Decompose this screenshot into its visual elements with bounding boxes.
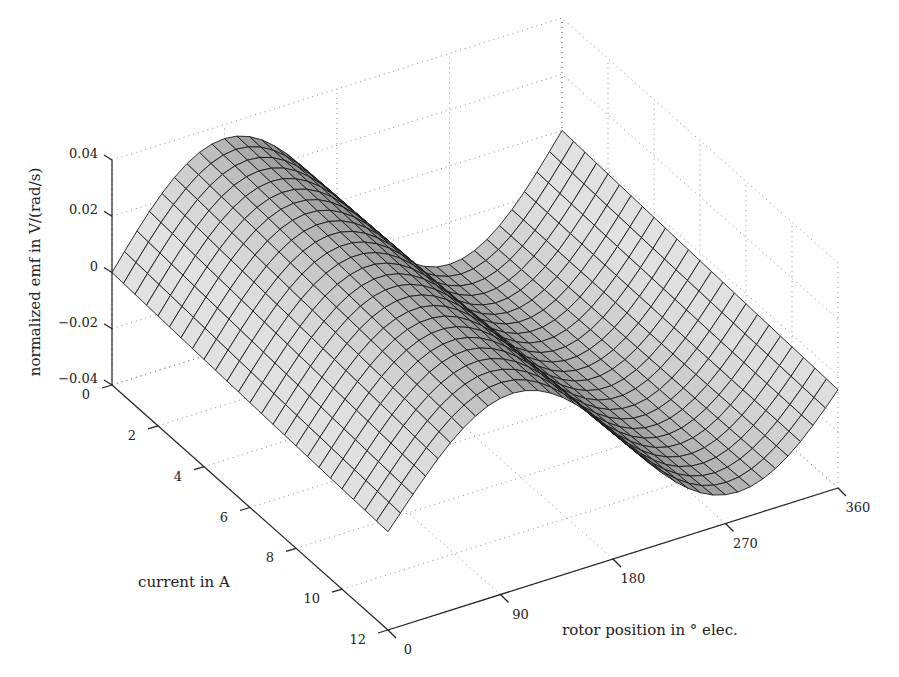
x-tick-label: 270 — [733, 536, 758, 551]
surface-plot: 0.040.020−0.02−0.04024681012090180270360… — [0, 0, 899, 677]
x-tick-label: 180 — [621, 571, 646, 586]
z-tick-label: 0.04 — [69, 146, 98, 161]
y-axis-label: current in A — [138, 573, 230, 591]
z-tick-label: −0.04 — [58, 371, 98, 386]
z-tick-label: 0 — [90, 259, 98, 274]
x-tick-label: 90 — [512, 607, 529, 622]
z-axis-label: normalized emf in V/(rad/s) — [26, 168, 44, 376]
x-tick-label: 0 — [404, 642, 412, 657]
x-axis-label: rotor position in ° elec. — [562, 621, 738, 639]
y-tick-label: 12 — [349, 632, 366, 647]
y-tick-label: 4 — [174, 469, 182, 484]
z-tick-label: 0.02 — [69, 202, 98, 217]
y-tick-label: 6 — [220, 510, 228, 525]
x-tick-label: 360 — [846, 500, 871, 515]
y-tick-label: 2 — [128, 428, 136, 443]
surface-mesh — [112, 131, 838, 532]
y-tick-label: 0 — [82, 387, 90, 402]
y-tick-label: 8 — [266, 550, 274, 565]
z-tick-label: −0.02 — [58, 315, 98, 330]
y-tick-label: 10 — [303, 591, 320, 606]
